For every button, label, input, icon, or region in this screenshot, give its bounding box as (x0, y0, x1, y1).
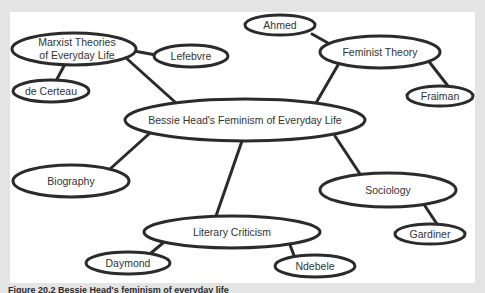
node-biography: Biography (13, 165, 129, 197)
node-sociology: Sociology (320, 173, 456, 207)
node-marxist-theories: Marxist Theories of Everyday Life (12, 33, 136, 65)
edge-central-literary (216, 141, 242, 216)
node-central-label: Bessie Head's Feminism of Everyday Life (148, 114, 342, 126)
edge-literary-daymond (151, 243, 163, 253)
edge-feminist-fraiman (427, 59, 448, 86)
node-feminist-theory: Feminist Theory (320, 36, 440, 68)
edge-central-sociology (335, 136, 360, 174)
edge-marxist-lefebvre (134, 51, 156, 55)
edge-central-biography (110, 133, 150, 169)
edge-central-feminist (316, 65, 338, 103)
node-lefebvre: Lefebvre (154, 45, 228, 67)
edge-feminist-ahmed (312, 34, 328, 43)
node-feminist-label: Feminist Theory (342, 46, 418, 58)
node-central: Bessie Head's Feminism of Everyday Life (125, 99, 365, 141)
node-gardiner: Gardiner (395, 224, 465, 244)
node-fraiman-label: Fraiman (421, 90, 460, 102)
node-sociology-label: Sociology (365, 184, 411, 196)
node-daymond: Daymond (86, 252, 170, 274)
node-ahmed: Ahmed (245, 15, 315, 35)
figure-caption: Figure 20.2 Bessie Head's feminism of ev… (8, 285, 229, 293)
node-daymond-label: Daymond (106, 257, 151, 269)
node-literary-label: Literary Criticism (193, 226, 271, 238)
node-biography-label: Biography (47, 175, 95, 187)
node-ndebele-label: Ndebele (295, 260, 334, 272)
node-ndebele: Ndebele (275, 255, 355, 277)
edge-sociology-gardiner (425, 206, 437, 224)
node-lefebvre-label: Lefebvre (171, 50, 212, 62)
node-marxist-label-line1: Marxist Theories (38, 36, 115, 48)
node-ahmed-label: Ahmed (263, 19, 296, 31)
node-de-certeau: de Certeau (13, 80, 89, 102)
node-gardiner-label: Gardiner (410, 228, 451, 240)
node-decerteau-label: de Certeau (25, 85, 77, 97)
edge-marxist-decerteau (56, 64, 65, 81)
node-marxist-label-line2: of Everyday Life (39, 49, 114, 61)
node-literary-criticism: Literary Criticism (144, 216, 320, 248)
node-fraiman: Fraiman (407, 86, 473, 106)
concept-map: Bessie Head's Feminism of Everyday Life … (0, 0, 485, 293)
